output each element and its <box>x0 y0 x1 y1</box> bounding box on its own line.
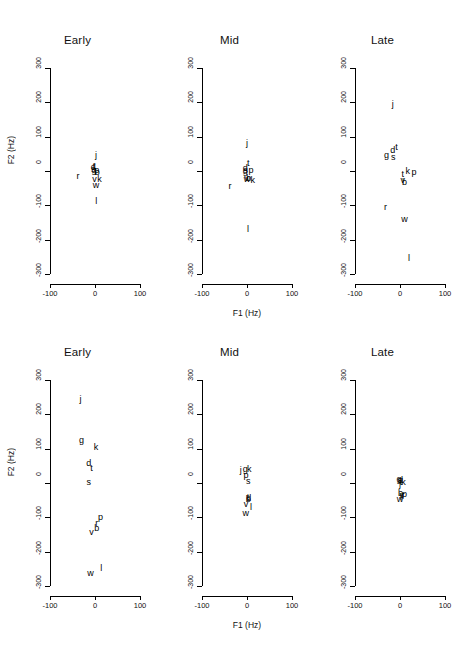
y-tick-label: 0 <box>340 160 347 164</box>
data-point: t <box>90 463 93 472</box>
x-tick <box>400 596 401 600</box>
y-tick-label: 0 <box>340 472 347 476</box>
y-tick <box>350 240 355 241</box>
x-tick-label: 100 <box>125 602 155 610</box>
y-tick <box>197 205 202 206</box>
y-tick-label: -200 <box>35 541 42 555</box>
data-point: g <box>384 150 389 159</box>
y-tick-label: 300 <box>340 57 347 69</box>
x-tick <box>247 596 248 600</box>
data-point: v <box>89 528 94 537</box>
panel-title: Mid <box>152 34 307 46</box>
y-tick <box>45 205 50 206</box>
y-tick-label: -300 <box>35 575 42 589</box>
data-point: l <box>95 197 97 206</box>
data-point: v <box>400 175 405 184</box>
data-point: r <box>402 491 405 500</box>
y-tick-label: -100 <box>35 506 42 520</box>
data-point: b <box>94 523 99 532</box>
x-tick <box>140 596 141 600</box>
y-tick <box>350 449 355 450</box>
x-tick <box>292 596 293 600</box>
y-tick <box>197 414 202 415</box>
y-tick <box>350 380 355 381</box>
y-tick <box>197 380 202 381</box>
y-tick-label: 200 <box>35 403 42 415</box>
x-tick <box>95 284 96 288</box>
x-tick-label: -100 <box>187 290 217 298</box>
y-tick <box>45 517 50 518</box>
y-tick <box>350 137 355 138</box>
y-tick-label: -300 <box>340 263 347 277</box>
y-tick-label: 300 <box>187 369 194 381</box>
y-tick <box>45 102 50 103</box>
y-tick <box>197 68 202 69</box>
y-tick-label: 200 <box>187 91 194 103</box>
x-tick-label: 0 <box>385 602 415 610</box>
panel-mid-row1: Mid3002001000-100-200-300-1000100F1 (Hz)… <box>152 340 307 652</box>
panel-late-row1: Late3002001000-100-200-300-1000100gsdtkj… <box>305 340 460 652</box>
y-tick-label: 300 <box>187 57 194 69</box>
x-tick-label: 100 <box>430 290 460 298</box>
data-point: s <box>86 478 91 487</box>
y-axis-line <box>355 68 356 274</box>
y-tick <box>197 552 202 553</box>
y-tick <box>350 102 355 103</box>
y-tick-label: 100 <box>187 438 194 450</box>
data-point: s <box>246 476 251 485</box>
x-tick-label: -100 <box>187 602 217 610</box>
data-point: r <box>76 172 79 181</box>
data-point: r <box>228 182 231 191</box>
data-point: j <box>95 150 97 159</box>
y-tick-label: 0 <box>187 472 194 476</box>
y-tick-label: 0 <box>187 160 194 164</box>
data-point: l <box>247 225 249 234</box>
x-tick <box>202 284 203 288</box>
y-tick <box>45 240 50 241</box>
x-tick <box>355 284 356 288</box>
y-axis-line <box>202 380 203 586</box>
x-tick-label: 100 <box>277 602 307 610</box>
data-point: j <box>240 465 242 474</box>
y-tick-label: -300 <box>340 575 347 589</box>
x-tick <box>202 596 203 600</box>
x-tick-label: -100 <box>35 602 65 610</box>
y-tick-label: 100 <box>187 126 194 138</box>
y-axis-line <box>202 68 203 274</box>
y-tick <box>197 449 202 450</box>
y-tick <box>350 483 355 484</box>
x-tick-label: 100 <box>277 290 307 298</box>
x-tick-label: -100 <box>340 290 370 298</box>
y-tick-label: -100 <box>35 194 42 208</box>
x-tick <box>140 284 141 288</box>
data-point: p <box>98 513 103 522</box>
data-point: w <box>93 180 100 189</box>
panel-late-row0: Late3002001000-100-200-300-1000100jgdtst… <box>305 28 460 340</box>
y-tick <box>350 274 355 275</box>
y-tick <box>197 171 202 172</box>
y-axis-line <box>355 380 356 586</box>
y-tick-label: -300 <box>35 263 42 277</box>
y-tick <box>45 586 50 587</box>
data-point: k <box>401 478 406 487</box>
y-tick-label: 0 <box>35 472 42 476</box>
y-tick <box>350 517 355 518</box>
y-tick <box>197 483 202 484</box>
figure-canvas: Early3002001000-100-200-300-1000100F2 (H… <box>0 0 465 652</box>
data-point: l <box>250 503 252 512</box>
y-axis-label: F2 (Hz) <box>6 136 16 164</box>
y-tick <box>197 137 202 138</box>
x-tick <box>50 596 51 600</box>
y-tick-label: 300 <box>35 57 42 69</box>
y-tick-label: -300 <box>187 263 194 277</box>
data-point: r <box>384 202 387 211</box>
data-point: w <box>244 174 251 183</box>
y-tick <box>197 240 202 241</box>
data-point: t <box>395 142 398 151</box>
panel-title: Early <box>0 34 155 46</box>
data-point: s <box>391 153 396 162</box>
data-point: j <box>392 99 394 108</box>
y-tick-label: -100 <box>340 194 347 208</box>
y-axis-line <box>50 68 51 274</box>
y-tick <box>350 552 355 553</box>
